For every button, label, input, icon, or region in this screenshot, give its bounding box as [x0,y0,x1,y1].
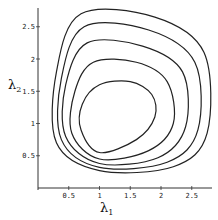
x-tick-label: 2.5 [185,192,198,200]
x-tick-label: 1.5 [124,192,137,200]
y-axis-label: λ2 [8,77,21,94]
x-tick-label: 2 [159,192,163,200]
y-tick-label: 2 [31,56,35,64]
axes: 0.511.522.5 0.511.522.5 [22,8,212,200]
y-tick-label: 2.5 [22,23,35,31]
y-tick-label: 1.5 [22,88,35,96]
x-tick-label: 1 [97,192,101,200]
contour-chart: 0.511.522.5 0.511.522.5 λ1 λ2 [0,0,218,220]
x-tick-label: 0.5 [62,192,75,200]
contour-line [58,23,202,169]
x-axis-label: λ1 [100,200,113,217]
contour-line [79,81,156,153]
y-tick-label: 0.5 [22,152,35,160]
contour-line [70,59,175,160]
contour-lines [52,9,211,173]
y-tick-label: 1 [31,120,35,128]
y-ticks: 0.511.522.5 [22,23,40,160]
